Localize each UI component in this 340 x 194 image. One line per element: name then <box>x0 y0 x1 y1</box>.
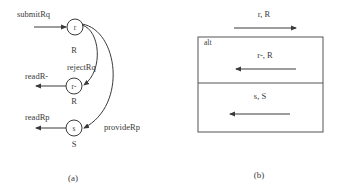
state-r-minus-label: r- <box>72 82 77 91</box>
read-rp-label: readRp <box>25 112 50 122</box>
state-s-label: s <box>73 124 76 133</box>
message-r-minus: r-, R <box>236 50 296 69</box>
state-r-sublabel: R <box>71 45 77 55</box>
caption-b: (b) <box>254 170 265 180</box>
caption-a: (a) <box>68 173 78 183</box>
reject-label: rejectRq <box>67 62 97 72</box>
provide-curve <box>82 24 113 128</box>
panel-a-state-machine: submitRq r R rejectRq provideRp r- R rea… <box>17 9 140 183</box>
diagram-canvas: submitRq r R rejectRq provideRp r- R rea… <box>0 0 340 194</box>
submit-label: submitRq <box>17 9 51 19</box>
read-r-minus-label: readR- <box>25 71 48 81</box>
transition-read-r-minus: readR- <box>25 71 66 86</box>
state-r: r R <box>67 19 83 55</box>
state-s: s S <box>66 120 82 149</box>
alt-fragment-label: alt <box>204 38 212 47</box>
message-r-label: r, R <box>258 9 271 19</box>
message-r: r, R <box>234 9 296 28</box>
provide-label: provideRp <box>104 122 140 132</box>
panel-b-sequence-fragment: r, R alt r-, R s, S (b) <box>198 9 323 180</box>
message-s-label: s, S <box>254 91 267 101</box>
state-r-label: r <box>74 23 77 32</box>
reject-curve <box>82 25 97 85</box>
message-r-minus-label: r-, R <box>257 50 273 60</box>
transition-submit: submitRq <box>17 9 66 27</box>
state-r-minus: r- R <box>66 78 82 106</box>
transition-read-rp: readRp <box>25 112 66 128</box>
state-s-sublabel: S <box>72 139 77 149</box>
message-s: s, S <box>230 91 290 114</box>
state-r-minus-sublabel: R <box>71 96 77 106</box>
